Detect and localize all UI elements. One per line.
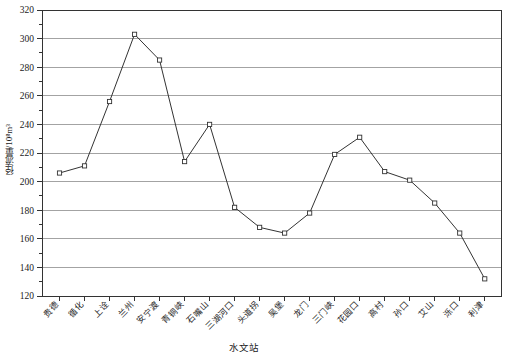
- data-point-marker: [283, 231, 287, 235]
- data-point-marker: [408, 178, 412, 182]
- y-tick-label: 140: [20, 263, 35, 273]
- y-tick-label: 260: [20, 91, 35, 101]
- data-series-line: [60, 34, 485, 279]
- data-point-marker: [132, 32, 136, 36]
- x-tick-label: 循化: [66, 299, 86, 319]
- x-tick-label: 花园口: [335, 299, 361, 325]
- x-tick-label: 安宁渡: [135, 299, 161, 325]
- data-point-marker: [182, 159, 186, 163]
- x-tick-label: 艾山: [416, 299, 436, 319]
- y-tick-label: 200: [20, 177, 35, 187]
- y-tick-label: 280: [20, 63, 35, 73]
- x-tick-label: 高村: [366, 299, 386, 319]
- y-tick-label: 160: [20, 234, 35, 244]
- grid-lines: [42, 39, 501, 268]
- data-point-marker: [233, 205, 237, 209]
- chart-canvas: 120140160180200220240260280300320 贵德循化上诠…: [0, 0, 509, 358]
- x-tick-label: 龙门: [291, 299, 311, 319]
- y-axis-ticks: 120140160180200220240260280300320: [20, 5, 42, 301]
- y-tick-label: 320: [20, 5, 35, 15]
- x-tick-label: 吴堡: [266, 299, 286, 319]
- x-tick-label: 利津: [466, 299, 486, 319]
- y-tick-label: 120: [20, 291, 35, 301]
- x-axis-ticks: [60, 296, 485, 301]
- x-tick-label: 三门峡: [310, 299, 336, 325]
- data-point-marker: [207, 122, 211, 126]
- x-tick-label: 青铜峡: [160, 299, 186, 325]
- x-tick-label: 泺口: [441, 299, 461, 319]
- data-point-marker: [107, 99, 111, 103]
- x-tick-label: 头道拐: [235, 299, 261, 325]
- x-tick-label: 孙口: [391, 299, 411, 319]
- data-point-marker: [157, 58, 161, 62]
- y-tick-label: 220: [20, 148, 35, 158]
- data-point-marker: [82, 164, 86, 168]
- data-point-marker: [483, 277, 487, 281]
- data-point-marker: [458, 231, 462, 235]
- data-point-marker: [258, 225, 262, 229]
- x-tick-label: 上诠: [91, 299, 111, 319]
- data-point-marker: [333, 152, 337, 156]
- x-axis-title: 水文站: [229, 342, 259, 353]
- runoff-line-chart-figure: 径流量/10⁸m³ 120140160180200220240260280300…: [0, 0, 509, 358]
- x-tick-label: 兰州: [116, 299, 136, 319]
- data-point-marker: [57, 171, 61, 175]
- data-point-marker: [308, 211, 312, 215]
- x-tick-label: 贵德: [41, 299, 61, 319]
- y-tick-label: 180: [20, 206, 35, 216]
- y-tick-label: 300: [20, 34, 35, 44]
- data-point-marker: [433, 201, 437, 205]
- data-point-marker: [358, 135, 362, 139]
- data-point-marker: [383, 169, 387, 173]
- y-tick-label: 240: [20, 120, 35, 130]
- x-axis-tick-labels: 贵德循化上诠兰州安宁渡青铜峡石嘴山三湖河口头道拐吴堡龙门三门峡花园口高村孙口艾山…: [41, 299, 486, 332]
